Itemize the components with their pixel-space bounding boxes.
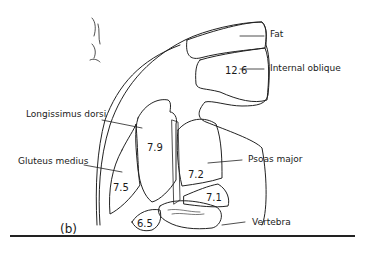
value-psoas-major: 7.2 xyxy=(188,170,204,180)
panel-label: (b) xyxy=(60,223,77,235)
leader-gluteus xyxy=(84,165,122,172)
label-vertebra: Vertebra xyxy=(252,218,291,227)
value-internal-oblique: 12.6 xyxy=(225,66,247,76)
value-bottom-muscle: 6.5 xyxy=(137,219,153,229)
vertebra-texture xyxy=(168,209,204,214)
outer-outline xyxy=(99,22,269,225)
label-psoas-major: Psoas major xyxy=(248,155,303,164)
carcass-cross-section-diagram xyxy=(0,0,370,260)
label-gluteus-medius: Gluteus medius xyxy=(18,157,88,166)
label-longissimus-dorsi: Longissimus dorsi xyxy=(26,110,106,119)
leader-psoas xyxy=(208,160,242,163)
value-gluteus-medius: 7.5 xyxy=(113,183,129,193)
fat-region xyxy=(187,22,267,58)
value-longissimus-dorsi: 7.9 xyxy=(147,143,163,153)
leader-vertebra xyxy=(222,222,245,225)
label-fat: Fat xyxy=(270,30,283,39)
value-small-muscle: 7.1 xyxy=(206,193,222,203)
outer-fat-line xyxy=(96,45,180,225)
sketch-mark xyxy=(90,18,100,62)
divider-rule xyxy=(10,235,355,237)
label-internal-oblique: Internal oblique xyxy=(270,64,341,73)
